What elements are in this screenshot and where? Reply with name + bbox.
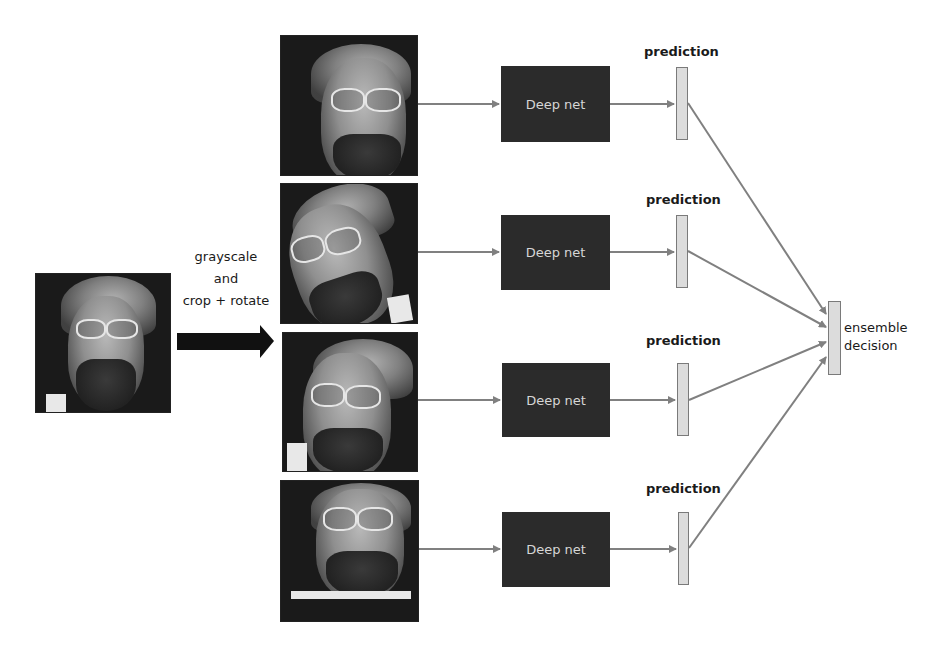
prediction-label-1: prediction [644,44,719,59]
transform-arrow-icon [177,325,274,358]
transform-line-3: crop + rotate [176,290,276,312]
prediction-label-2: prediction [646,192,721,207]
augmented-face-image-1 [280,35,418,176]
ensemble-decision-vector [828,301,841,375]
deep-net-box-3: Deep net [502,363,610,437]
transform-line-2: and [176,268,276,290]
prediction-vector-1 [676,67,688,140]
input-face-image [35,273,171,413]
deep-net-box-2: Deep net [501,215,610,290]
transform-line-1: grayscale [176,246,276,268]
ensemble-decision-label: ensemble decision [844,319,908,355]
deep-net-box-1: Deep net [501,66,610,142]
ensemble-line-2: decision [844,337,908,355]
augmented-face-image-4 [280,480,419,622]
augmented-face-image-3 [282,332,418,472]
ensemble-line-1: ensemble [844,319,908,337]
prediction-label-3: prediction [646,333,721,348]
prediction-vector-3 [677,363,689,436]
transform-label: grayscale and crop + rotate [176,246,276,312]
prediction-label-4: prediction [646,481,721,496]
prediction-vector-4 [678,512,689,585]
deep-net-box-4: Deep net [502,512,610,587]
prediction-vector-2 [676,215,688,288]
augmented-face-image-2 [280,183,418,324]
